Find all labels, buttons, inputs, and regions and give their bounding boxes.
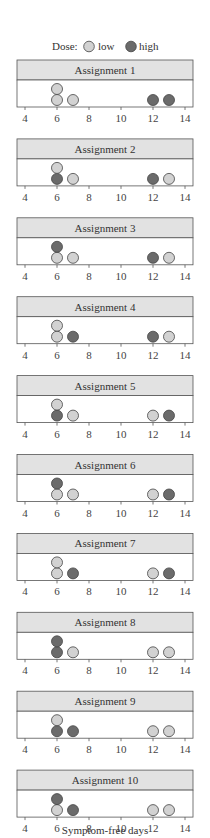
x-tick-label: 10 <box>116 112 128 124</box>
panel-title: Assignment 10 <box>72 774 139 786</box>
panel-assignment-6: Assignment 6468101214 <box>17 455 193 519</box>
panel-title: Assignment 9 <box>75 695 136 707</box>
x-tick-label: 14 <box>180 270 192 282</box>
panel-title: Assignment 4 <box>75 301 136 313</box>
x-tick-label: 14 <box>180 428 192 440</box>
x-axis-title: Symptom-free days <box>62 824 148 836</box>
x-tick-label: 12 <box>148 743 159 755</box>
x-tick-label: 10 <box>116 270 128 282</box>
panel-assignment-3: Assignment 3468101214 <box>17 218 193 282</box>
x-tick-label: 10 <box>116 349 128 361</box>
x-tick-label: 6 <box>54 743 60 755</box>
panel-title: Assignment 2 <box>75 143 136 155</box>
data-point-low <box>68 252 79 263</box>
x-tick-label: 14 <box>180 585 192 597</box>
data-point-low <box>164 726 175 737</box>
data-point-low <box>52 557 63 568</box>
x-tick-label: 12 <box>148 428 159 440</box>
x-tick-label: 8 <box>86 349 92 361</box>
panels: Assignment 1468101214Assignment 24681012… <box>17 60 193 834</box>
data-point-high <box>68 568 79 579</box>
x-tick-label: 8 <box>86 743 92 755</box>
x-tick-label: 4 <box>22 585 28 597</box>
data-point-high <box>52 478 63 489</box>
x-tick-label: 8 <box>86 191 92 203</box>
x-tick-label: 12 <box>148 507 159 519</box>
data-point-low <box>52 95 63 106</box>
data-point-low <box>52 568 63 579</box>
x-tick-label: 6 <box>54 428 60 440</box>
x-tick-label: 14 <box>180 664 192 676</box>
panel-assignment-4: Assignment 4468101214 <box>17 297 193 361</box>
data-point-high <box>52 794 63 805</box>
data-point-low <box>148 805 159 816</box>
data-point-high <box>164 95 175 106</box>
x-tick-label: 8 <box>86 428 92 440</box>
x-tick-label: 6 <box>54 585 60 597</box>
x-tick-label: 6 <box>54 270 60 282</box>
panel-title: Assignment 8 <box>75 616 136 628</box>
data-point-high <box>52 173 63 184</box>
x-tick-label: 4 <box>22 822 28 834</box>
data-point-high <box>68 331 79 342</box>
dot-plot-chart: Dose:lowhigh Assignment 1468101214Assign… <box>0 0 210 838</box>
x-tick-label: 12 <box>148 270 159 282</box>
data-point-low <box>148 489 159 500</box>
data-point-high <box>148 252 159 263</box>
data-point-low <box>52 252 63 263</box>
x-tick-label: 12 <box>148 349 159 361</box>
legend-swatch-high <box>126 41 137 52</box>
data-point-low <box>68 647 79 658</box>
x-tick-label: 8 <box>86 664 92 676</box>
x-tick-label: 4 <box>22 428 28 440</box>
data-point-low <box>52 162 63 173</box>
x-tick-label: 12 <box>148 822 159 834</box>
data-point-low <box>68 95 79 106</box>
data-point-high <box>164 410 175 421</box>
legend: Dose:lowhigh <box>52 40 159 52</box>
panel-assignment-7: Assignment 7468101214 <box>17 533 193 597</box>
data-point-low <box>52 320 63 331</box>
x-tick-label: 8 <box>86 112 92 124</box>
data-point-high <box>148 331 159 342</box>
panel-assignment-1: Assignment 1468101214 <box>17 60 193 124</box>
data-point-low <box>148 647 159 658</box>
data-point-low <box>52 331 63 342</box>
x-tick-label: 12 <box>148 191 159 203</box>
data-point-low <box>164 252 175 263</box>
panel-title: Assignment 5 <box>75 380 136 392</box>
x-tick-label: 6 <box>54 507 60 519</box>
data-point-low <box>52 399 63 410</box>
panel-assignment-9: Assignment 9468101214 <box>17 691 193 755</box>
x-tick-label: 8 <box>86 507 92 519</box>
x-tick-label: 4 <box>22 112 28 124</box>
x-tick-label: 12 <box>148 585 159 597</box>
x-tick-label: 8 <box>86 585 92 597</box>
data-point-low <box>164 331 175 342</box>
panel-title: Assignment 1 <box>75 64 136 76</box>
data-point-high <box>52 726 63 737</box>
x-tick-label: 4 <box>22 507 28 519</box>
legend-swatch-low <box>84 41 95 52</box>
x-tick-label: 4 <box>22 349 28 361</box>
data-point-low <box>68 489 79 500</box>
data-point-high <box>148 95 159 106</box>
data-point-high <box>52 241 63 252</box>
x-tick-label: 14 <box>180 743 192 755</box>
data-point-high <box>148 173 159 184</box>
data-point-low <box>68 410 79 421</box>
data-point-low <box>148 726 159 737</box>
data-point-low <box>52 805 63 816</box>
legend-label-low: low <box>98 40 115 52</box>
x-tick-label: 12 <box>148 112 159 124</box>
data-point-low <box>164 805 175 816</box>
x-tick-label: 12 <box>148 664 159 676</box>
data-point-high <box>52 636 63 647</box>
data-point-low <box>148 410 159 421</box>
data-point-high <box>68 805 79 816</box>
x-tick-label: 10 <box>116 191 128 203</box>
x-tick-label: 14 <box>180 191 192 203</box>
x-tick-label: 4 <box>22 743 28 755</box>
x-tick-label: 6 <box>54 191 60 203</box>
x-tick-label: 14 <box>180 822 192 834</box>
